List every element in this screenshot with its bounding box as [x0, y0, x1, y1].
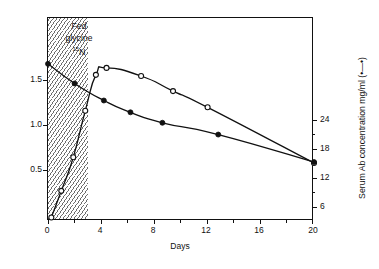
- x-axis-title: Days: [170, 241, 189, 251]
- data-point: [72, 81, 77, 86]
- x-tick-label-12: 12: [201, 225, 210, 235]
- y-right-tick-label-18: 18: [320, 143, 344, 153]
- x-tick-label-8: 8: [151, 225, 156, 235]
- x-tick-label-20: 20: [308, 225, 317, 235]
- data-point: [139, 74, 144, 79]
- data-point: [104, 65, 109, 70]
- data-point: [171, 89, 176, 94]
- y-axis-right-title: Serum Ab concentration mg/ml (•—•): [357, 23, 367, 233]
- x-tick-label-0: 0: [45, 225, 50, 235]
- data-point: [101, 98, 106, 103]
- y-left-tick-label-1.5: 1.5: [12, 74, 42, 84]
- data-point: [205, 105, 210, 110]
- series-ab-line: [48, 64, 314, 162]
- figure-root: Atoms percent 15N (o—o) Serum Ab concent…: [0, 0, 379, 269]
- y-left-tick-label-1.0: 1.0: [12, 119, 42, 129]
- data-point: [312, 160, 317, 165]
- y-right-tick-label-12: 12: [320, 172, 344, 182]
- data-point: [49, 215, 54, 220]
- data-point: [83, 108, 88, 113]
- data-point: [128, 110, 133, 115]
- data-point: [216, 132, 221, 137]
- curves-svg: [48, 18, 314, 221]
- plot-area: Fed glycine 15N: [47, 17, 313, 220]
- y-right-tick-label-24: 24: [320, 114, 344, 124]
- data-point: [46, 61, 51, 66]
- data-point: [93, 72, 98, 77]
- x-tick-label-16: 16: [254, 225, 263, 235]
- y-left-tick-label-0.5: 0.5: [12, 164, 42, 174]
- data-point: [71, 155, 76, 160]
- x-tick-label-4: 4: [98, 225, 103, 235]
- data-point: [160, 120, 165, 125]
- y-right-tick-label-6: 6: [320, 201, 344, 211]
- series-n15-line: [51, 67, 314, 218]
- data-point: [59, 188, 64, 193]
